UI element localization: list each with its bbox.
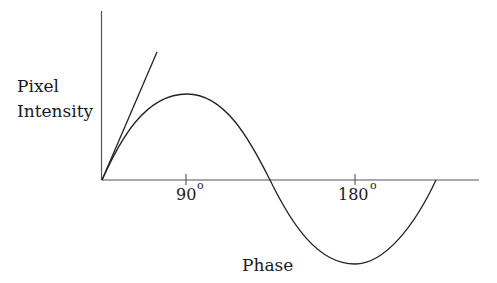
tick-label-90: 90 (176, 185, 196, 204)
phase-intensity-diagram: Pixel Intensity 90 o 180 o Phase (0, 0, 497, 283)
sine-curve (102, 94, 436, 264)
degree-symbol-90: o (197, 179, 204, 192)
y-axis-label-line1: Pixel (17, 76, 59, 96)
x-axis-label: Phase (242, 255, 293, 275)
tangent-line (102, 52, 157, 180)
degree-symbol-180: o (370, 179, 377, 192)
y-axis-label-line2: Intensity (17, 101, 93, 121)
tick-label-180: 180 (338, 185, 369, 204)
